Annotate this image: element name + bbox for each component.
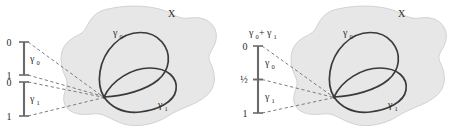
loop-label-gamma-0-right-letter: γ [342, 27, 348, 38]
axis-title-lead-letter: γ [248, 27, 254, 38]
separate-intervals-panel: X γ 0 γ 1 0 1 γ 0 0 1 γ 1 [7, 6, 217, 125]
interval-gamma-0-left: 0 1 γ 0 [7, 37, 40, 81]
loop-label-gamma-1-left-sub: 1 [165, 105, 168, 112]
basepoint-left [102, 95, 105, 98]
tick-label-0-gamma-1-left: 0 [7, 77, 12, 88]
axis-title-plus-operator: + [259, 27, 265, 38]
tick-label-0-gamma-0-left: 0 [7, 37, 12, 48]
space-label-left: X [168, 8, 176, 19]
space-x-blob-right [291, 6, 446, 125]
axis-title-gamma-sum: γ 0 + γ 1 [248, 27, 277, 40]
loop-label-gamma-0-left-letter: γ [112, 27, 118, 38]
segment-label-gamma-1-right-sub: 1 [272, 97, 275, 104]
loop-label-gamma-1-right-sub: 1 [395, 105, 398, 112]
tick-label-half-right: ½ [240, 74, 248, 85]
concatenated-interval-panel: X γ 0 γ 1 γ 0 + γ 1 0 ½ 1 γ 0 [240, 6, 446, 125]
axis-title-trail-sub: 1 [274, 33, 277, 40]
loop-label-gamma-0-right-sub: 0 [350, 33, 353, 40]
segment-label-gamma-1-left-sub: 1 [37, 99, 40, 106]
tick-label-1-right: 1 [243, 108, 248, 119]
basepoint-right [332, 95, 335, 98]
segment-label-gamma-0-left-letter: γ [29, 53, 35, 64]
interval-gamma-0-plus-gamma-1: 0 ½ 1 γ 0 γ 1 [240, 41, 275, 119]
loop-label-gamma-1-left-letter: γ [157, 99, 163, 110]
segment-label-gamma-0-left-sub: 0 [37, 59, 40, 66]
space-label-right: X [398, 8, 406, 19]
space-x-blob-left [61, 6, 216, 125]
tick-label-0-right: 0 [243, 41, 248, 52]
path-concatenation-figure: X γ 0 γ 1 0 1 γ 0 0 1 γ 1 [0, 0, 452, 135]
segment-label-gamma-1-right-letter: γ [264, 91, 270, 102]
segment-label-gamma-0-right-sub: 0 [272, 63, 275, 70]
segment-label-gamma-0-right-letter: γ [264, 57, 270, 68]
loop-label-gamma-1-right-letter: γ [387, 99, 393, 110]
tick-label-1-gamma-1-left: 1 [7, 111, 12, 122]
loop-label-gamma-0-left-sub: 0 [120, 33, 123, 40]
axis-title-trail-letter: γ [266, 27, 272, 38]
segment-label-gamma-1-left-letter: γ [29, 93, 35, 104]
